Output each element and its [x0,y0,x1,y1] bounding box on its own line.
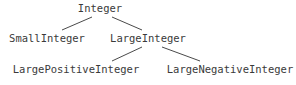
node-integer: Integer [78,2,122,14]
node-large-integer: LargeInteger [110,32,186,44]
class-hierarchy-diagram: Integer SmallInteger LargeInteger LargeP… [0,0,296,85]
edge-largeinteger-largenegativeinteger [162,47,200,61]
edge-largeinteger-largepositiveinteger [112,47,142,61]
node-large-negative-integer: LargeNegativeInteger [167,63,293,75]
edge-integer-largeinteger [112,17,142,30]
node-large-positive-integer: LargePositiveInteger [13,63,139,75]
edge-integer-smallinteger [62,17,92,30]
node-small-integer: SmallInteger [9,32,85,44]
